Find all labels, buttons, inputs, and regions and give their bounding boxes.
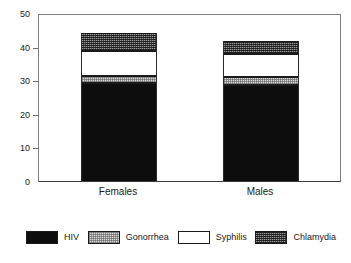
y-tick-label-20: 20 [20, 110, 30, 119]
bar-segment-females-chlamydia[interactable] [82, 33, 156, 52]
bar-segment-females-hiv[interactable] [82, 83, 156, 181]
y-tick-label-40: 40 [20, 43, 30, 52]
legend-item-hiv[interactable]: HIV [26, 231, 79, 244]
chart-title [0, 0, 351, 3]
x-tick-label-females: Females [99, 186, 137, 198]
legend-label-syphilis: Syphilis [216, 232, 247, 242]
stacked-bar-chart: 50 40 30 20 10 0 Females Males [0, 0, 351, 263]
legend-label-chlamydia: Chlamydia [293, 232, 336, 242]
legend-swatch-hiv-icon [26, 231, 58, 244]
bar-segment-males-gonorrhea[interactable] [224, 77, 298, 84]
bar-segment-males-hiv[interactable] [224, 85, 298, 181]
plot-area [38, 14, 341, 182]
chart-legend: HIV Gonorrhea Syphilis Chlamydia [26, 228, 336, 246]
bar-stack-males[interactable] [223, 41, 299, 181]
legend-item-chlamydia[interactable]: Chlamydia [255, 231, 336, 244]
y-axis: 50 40 30 20 10 0 [0, 0, 38, 182]
bar-segment-males-chlamydia[interactable] [224, 41, 298, 54]
legend-item-syphilis[interactable]: Syphilis [178, 231, 247, 244]
legend-swatch-gonorrhea-icon [88, 231, 120, 244]
x-tick-label-males: Males [247, 186, 274, 198]
y-tick-label-10: 10 [20, 144, 30, 153]
bar-stack-females[interactable] [81, 33, 157, 181]
x-axis: Females Males [38, 186, 341, 202]
y-tick-label-50: 50 [20, 10, 30, 19]
y-tick-label-0: 0 [25, 178, 30, 187]
bar-segment-females-syphilis[interactable] [82, 51, 156, 76]
bar-segment-females-gonorrhea[interactable] [82, 76, 156, 83]
legend-swatch-chlamydia-icon [255, 231, 287, 244]
legend-swatch-syphilis-icon [178, 231, 210, 244]
legend-item-gonorrhea[interactable]: Gonorrhea [88, 231, 169, 244]
bar-segment-males-syphilis[interactable] [224, 54, 298, 78]
legend-label-gonorrhea: Gonorrhea [126, 232, 169, 242]
y-tick-label-30: 30 [20, 77, 30, 86]
legend-label-hiv: HIV [64, 232, 79, 242]
